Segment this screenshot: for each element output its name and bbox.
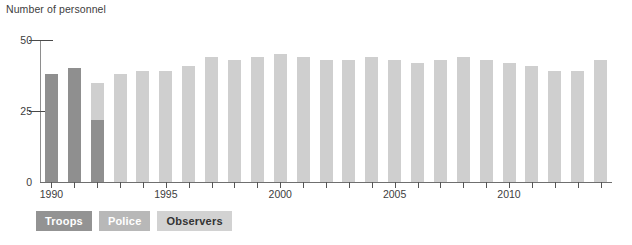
bar-2000 [274, 54, 287, 182]
bar-segment-observers [159, 71, 172, 182]
bar-1999 [251, 57, 264, 182]
y-axis-tick-label: 0 [26, 176, 32, 188]
x-axis-tick-label: 1990 [40, 188, 63, 200]
chart-legend: TroopsPoliceObservers [36, 211, 232, 231]
x-axis-tick-mark [303, 182, 304, 188]
bar-segment-observers [136, 71, 149, 182]
bar-segment-observers [503, 63, 516, 182]
legend-item-label: Observers [166, 215, 222, 227]
bar-1991 [68, 68, 81, 182]
bar-1990 [45, 74, 58, 182]
x-axis-tick-mark [372, 182, 373, 188]
x-axis-tick-mark [349, 182, 350, 188]
x-axis-tick-mark [143, 182, 144, 188]
bar-segment-observers [571, 71, 584, 182]
x-axis-tick-mark [97, 182, 98, 188]
x-axis-tick-mark [326, 182, 327, 188]
legend-item-police[interactable]: Police [99, 211, 151, 231]
x-axis-tick-mark [234, 182, 235, 188]
bar-1993 [114, 74, 127, 182]
bar-segment-troops [68, 68, 81, 182]
x-axis-tick-mark [555, 182, 556, 188]
x-axis-tick-mark [440, 182, 441, 188]
x-axis-tick-label: 2010 [497, 188, 520, 200]
bar-segment-troops [91, 120, 104, 182]
bar-segment-observers [411, 63, 424, 182]
bar-2011 [525, 66, 538, 182]
x-axis-tick-mark [578, 182, 579, 188]
legend-item-troops[interactable]: Troops [36, 211, 92, 231]
bar-2002 [320, 60, 333, 182]
bar-2013 [571, 71, 584, 182]
bar-2005 [388, 60, 401, 182]
bar-1996 [182, 66, 195, 182]
x-axis-tick-label: 2005 [383, 188, 406, 200]
bar-segment-observers [525, 66, 538, 182]
bar-segment-observers [274, 54, 287, 182]
bar-segment-observers [480, 60, 493, 182]
legend-item-label: Police [108, 215, 142, 227]
bar-segment-observers [320, 60, 333, 182]
legend-item-observers[interactable]: Observers [157, 211, 231, 231]
chart-figure: Number of personnel 02550 19901995200020… [0, 0, 632, 245]
bar-segment-observers [365, 57, 378, 182]
bar-2012 [548, 71, 561, 182]
bar-segment-observers [228, 60, 241, 182]
x-axis-tick-mark [601, 182, 602, 188]
bar-segment-observers [388, 60, 401, 182]
bar-segment-observers [457, 57, 470, 182]
bar-1997 [205, 57, 218, 182]
x-axis-tick-mark [463, 182, 464, 188]
x-axis-tick-mark [418, 182, 419, 188]
bar-2006 [411, 63, 424, 182]
bar-2009 [480, 60, 493, 182]
bar-2004 [365, 57, 378, 182]
x-axis-tick-mark [120, 182, 121, 188]
x-axis-tick-mark [189, 182, 190, 188]
bar-segment-observers [91, 83, 104, 120]
bar-2010 [503, 63, 516, 182]
bar-segment-observers [594, 60, 607, 182]
bar-1994 [136, 71, 149, 182]
x-axis-tick-label: 1995 [154, 188, 177, 200]
bar-segment-observers [434, 60, 447, 182]
bar-2014 [594, 60, 607, 182]
chart-axis-title: Number of personnel [6, 3, 106, 15]
bar-segment-troops [45, 74, 58, 182]
bar-2001 [297, 57, 310, 182]
bar-segment-observers [251, 57, 264, 182]
x-axis-tick-mark [212, 182, 213, 188]
legend-item-label: Troops [45, 215, 83, 227]
bar-segment-observers [548, 71, 561, 182]
x-axis-tick-mark [74, 182, 75, 188]
bar-segment-observers [342, 60, 355, 182]
x-axis-tick-mark [257, 182, 258, 188]
bar-segment-observers [182, 66, 195, 182]
bar-1992 [91, 83, 104, 182]
plot-area [40, 40, 612, 182]
x-axis-tick-mark [486, 182, 487, 188]
x-axis-tick-mark [532, 182, 533, 188]
x-axis-tick-label: 2000 [269, 188, 292, 200]
bar-2003 [342, 60, 355, 182]
bar-segment-observers [205, 57, 218, 182]
bar-2007 [434, 60, 447, 182]
bar-segment-observers [114, 74, 127, 182]
bar-1995 [159, 71, 172, 182]
bar-2008 [457, 57, 470, 182]
bar-1998 [228, 60, 241, 182]
bar-segment-observers [297, 57, 310, 182]
